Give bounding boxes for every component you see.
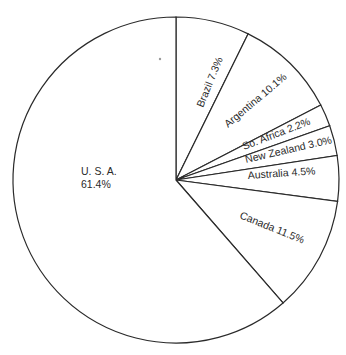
pie-chart: Brazil 7.3% Argentina 10.1% So. Africa 2…: [0, 0, 346, 355]
label-usa-name: U. S. A.: [81, 165, 117, 177]
pie-slices: [13, 17, 339, 343]
label-usa-value: 61.4%: [81, 178, 111, 190]
speck-mark: [159, 58, 161, 60]
